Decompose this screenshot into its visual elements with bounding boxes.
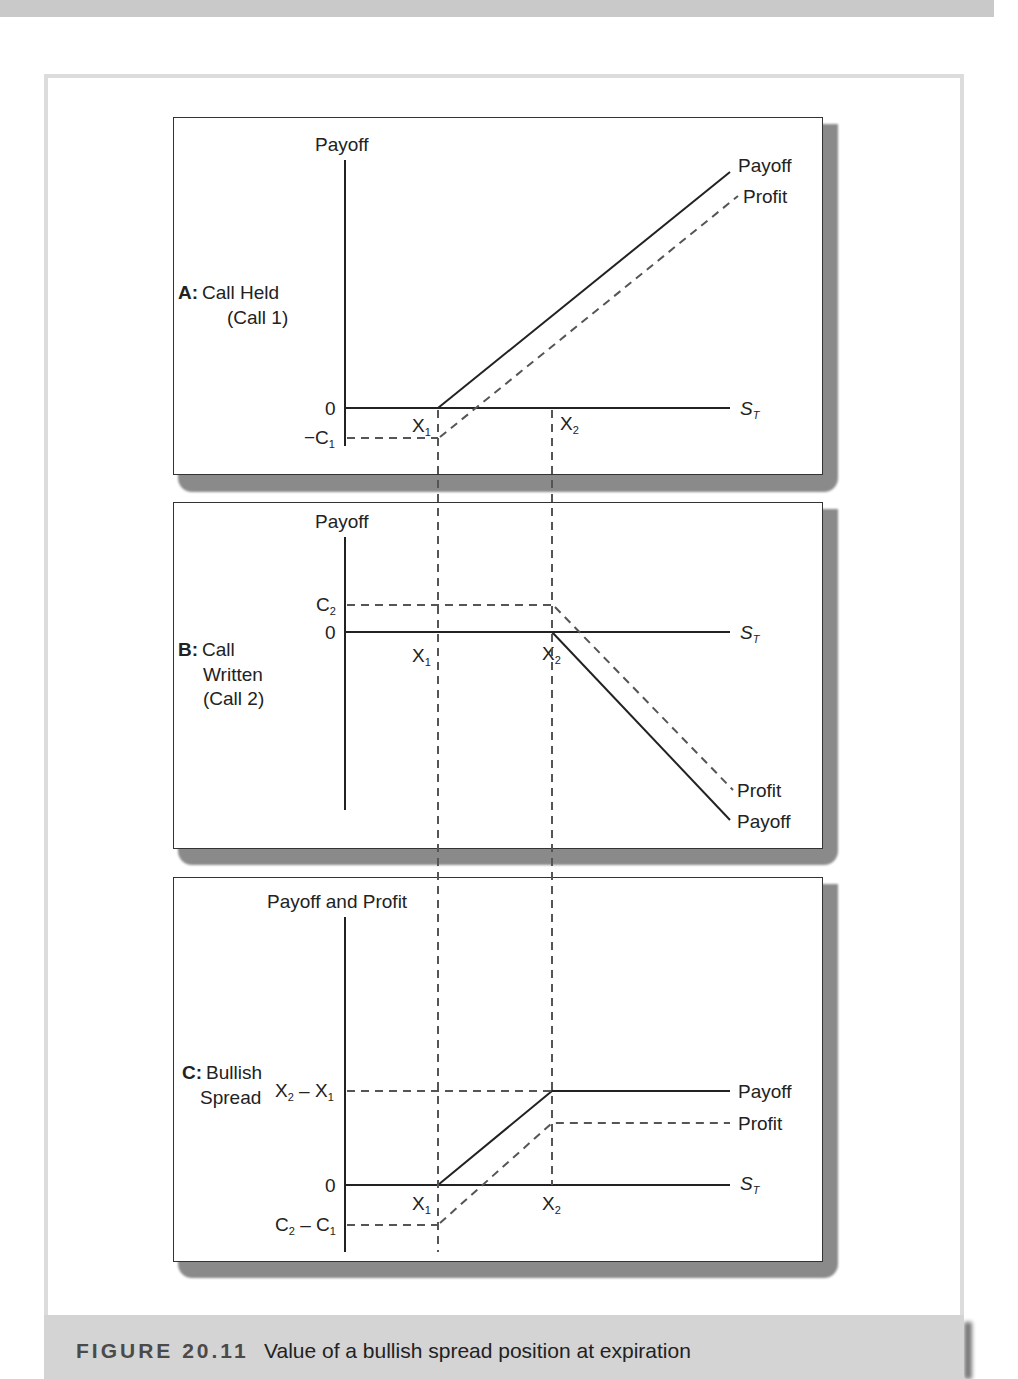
panel-c-title: C:Bullish [182,1062,262,1083]
panel-b-chart: Payoff C2 0 X1 X2 ST Profit Payoff B:Cal… [178,511,791,832]
chart-overlay: Payoff 0 −C1 X1 X2 ST Payoff Profit A:Ca… [0,0,1018,1379]
panel-c-subtitle: Spread [200,1087,261,1108]
panel-b-subtitle-2: (Call 2) [203,688,264,709]
panel-a-st-label: ST [740,398,761,421]
figure-caption: FIGURE 20.11 Value of a bullish spread p… [44,1315,964,1379]
panel-a-x1-label: X1 [412,415,431,438]
caption-shadow [964,1322,972,1379]
panel-a-subtitle: (Call 1) [227,307,288,328]
panel-c-payoff-line [438,1091,730,1185]
panel-a-payoff-line [438,172,730,408]
panel-a-zero: 0 [325,398,336,419]
panel-c-c2-c1-label: C2 – C1 [275,1214,336,1237]
panel-b-y-label: Payoff [315,511,369,532]
panel-a-legend-profit: Profit [743,186,788,207]
panel-b-legend-payoff: Payoff [737,811,791,832]
panel-c-chart: Payoff and Profit X2 – X1 0 C2 – C1 X1 X… [182,891,792,1252]
figure-title: Value of a bullish spread position at ex… [264,1339,691,1363]
panel-b-c2-label: C2 [316,594,336,617]
panel-a-title: A:Call Held [178,282,279,303]
panel-a-neg-c1-label: −C1 [304,427,335,450]
panel-b-profit-line [555,607,733,790]
panel-a-legend-payoff: Payoff [738,155,792,176]
panel-b-legend-profit: Profit [737,780,782,801]
panel-b-st-label: ST [740,622,761,645]
panel-c-zero: 0 [325,1175,336,1196]
panel-a-y-label: Payoff [315,134,369,155]
panel-b-subtitle-1: Written [203,664,263,685]
panel-c-y-label: Payoff and Profit [267,891,408,912]
panel-c-legend-payoff: Payoff [738,1081,792,1102]
panel-c-st-label: ST [740,1173,761,1196]
panel-a-chart: Payoff 0 −C1 X1 X2 ST Payoff Profit A:Ca… [178,134,792,450]
panel-a-profit-line [440,196,738,437]
figure-number: FIGURE 20.11 [76,1339,249,1363]
panel-c-legend-profit: Profit [738,1113,783,1134]
panel-b-x1-label: X1 [412,645,431,668]
panel-c-x2-label: X2 [542,1193,561,1216]
panel-a-x2-label: X2 [560,413,579,436]
panel-c-x1-label: X1 [412,1193,431,1216]
panel-b-zero: 0 [325,622,336,643]
panel-c-profit-line [440,1123,730,1223]
panel-b-payoff-line [552,632,730,820]
panel-b-title: B:Call [178,639,235,660]
panel-c-x2-x1-label: X2 – X1 [275,1080,334,1103]
